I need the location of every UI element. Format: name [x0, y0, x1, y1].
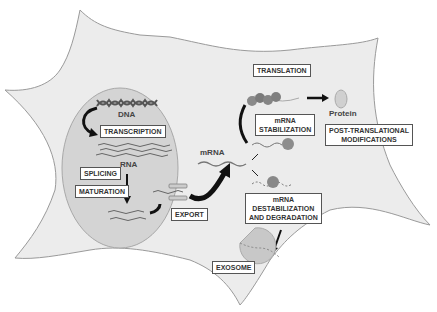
- binding-protein-icon: [267, 176, 279, 188]
- protein-label: Protein: [329, 109, 357, 118]
- transcription-label: TRANSCRIPTION: [100, 125, 166, 138]
- mrna-label: mRNA: [200, 148, 224, 157]
- maturation-label: MATURATION: [75, 185, 129, 198]
- binding-protein-icon: [282, 138, 294, 150]
- mrna-stabilization-line1: mRNA: [259, 116, 311, 125]
- ptm-line1: POST-TRANSLATIONAL: [329, 126, 409, 135]
- destab-line1: mRNA: [249, 195, 318, 204]
- protein-icon: [335, 90, 347, 108]
- exosome-label: EXOSOME: [212, 261, 255, 274]
- post-translational-modifications-label: POST-TRANSLATIONAL MODIFICATIONS: [325, 124, 413, 146]
- destab-line2: DESTABILIZATION: [249, 204, 318, 213]
- splicing-label: SPLICING: [80, 167, 121, 180]
- mrna-destabilization-label: mRNA DESTABILIZATION AND DEGRADATION: [245, 193, 322, 224]
- export-label: EXPORT: [171, 208, 208, 221]
- destab-line3: AND DEGRADATION: [249, 213, 318, 222]
- mrna-stabilization-label: mRNA STABILIZATION: [255, 114, 315, 136]
- mrna-stabilization-line2: STABILIZATION: [259, 125, 311, 134]
- translation-label: TRANSLATION: [253, 64, 311, 77]
- ptm-line2: MODIFICATIONS: [329, 135, 409, 144]
- dna-label: DNA: [118, 110, 135, 119]
- rna-label: RNA: [120, 160, 137, 169]
